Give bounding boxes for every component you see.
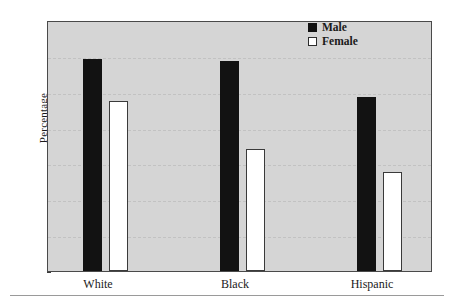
x-axis-label-black: Black — [175, 277, 295, 292]
bar-hispanic-male — [357, 97, 376, 271]
bar-chart-figure: Percentage 010203040506070 WhiteBlackHis… — [0, 0, 454, 304]
legend-label-male: Male — [322, 20, 347, 34]
bar-white-male — [83, 59, 102, 271]
legend-label-female: Female — [322, 34, 358, 48]
bottom-divider — [10, 295, 444, 296]
x-axis-label-white: White — [38, 277, 158, 292]
bar-black-male — [220, 61, 239, 271]
legend-item-female: Female — [308, 34, 358, 48]
plot-area — [47, 21, 432, 272]
y-tick-mark-0 — [47, 272, 51, 273]
bar-white-female — [109, 101, 128, 271]
empty-square-icon — [308, 37, 317, 46]
gridline-60 — [48, 58, 431, 59]
gridline-50 — [48, 94, 431, 95]
filled-square-icon — [308, 23, 317, 32]
chart-legend: Male Female — [302, 17, 364, 52]
bar-black-female — [246, 149, 265, 271]
legend-item-male: Male — [308, 20, 358, 34]
bar-hispanic-female — [383, 172, 402, 271]
x-axis-label-hispanic: Hispanic — [312, 277, 432, 292]
